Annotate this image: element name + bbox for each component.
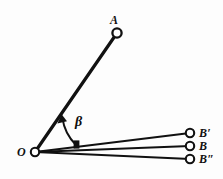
- node-Bdoubleprime: [186, 155, 194, 163]
- beta-arc-base-tick: [74, 140, 80, 148]
- point-label-O: O: [17, 146, 26, 158]
- node-Bprime: [186, 129, 194, 137]
- segment-O-A: [35, 33, 117, 152]
- point-label-B-prime: B′: [199, 127, 211, 139]
- node-A: [112, 28, 121, 37]
- angle-label-beta: β: [75, 115, 82, 129]
- node-O: [31, 148, 39, 156]
- geometry-figure: A O B′ B B″ β: [0, 0, 223, 179]
- segment-O-Bdoubleprime: [35, 152, 190, 159]
- point-label-B: B: [199, 140, 207, 152]
- node-B: [186, 142, 194, 150]
- point-label-B-double-prime: B″: [199, 153, 214, 165]
- point-label-A: A: [110, 14, 118, 26]
